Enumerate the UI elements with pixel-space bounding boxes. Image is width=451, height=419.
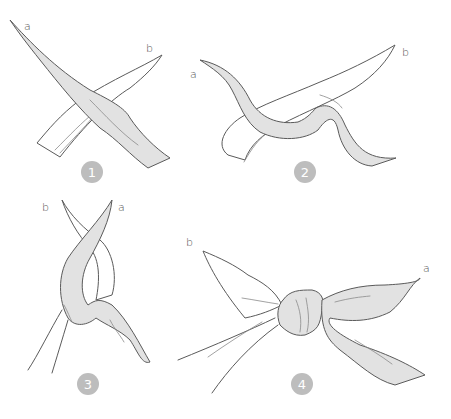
scarf-tail-left [52,320,68,373]
step-1: a b 1 [10,20,170,183]
step-4: b a 4 [178,236,430,395]
knot-diagram: a b 1 a b 2 b a 3 [0,0,451,419]
crease [208,322,262,357]
step-number: 4 [298,377,306,392]
step-2: a b 2 [190,45,409,183]
bow-loop-b [203,251,282,318]
scarf-tail-left [212,325,278,393]
label-a: a [118,201,125,214]
step-badge-2: 2 [294,161,316,183]
scarf-tail-left [28,310,62,370]
step-3: b a 3 [28,200,150,395]
step-badge-4: 4 [291,373,313,395]
step-badge-3: 3 [77,373,99,395]
step-number: 2 [301,165,309,180]
label-b: b [42,201,49,214]
step-badge-1: 1 [81,161,103,183]
label-a: a [423,262,430,275]
label-b: b [146,42,153,55]
step-number: 1 [88,165,96,180]
label-a: a [190,68,197,81]
label-a: a [24,20,31,33]
bow-loop-a [322,278,425,385]
step-number: 3 [84,377,92,392]
label-b: b [186,236,193,249]
label-b: b [402,46,409,59]
